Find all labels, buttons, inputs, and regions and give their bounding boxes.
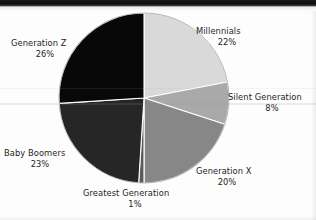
pie-slice xyxy=(59,98,144,183)
pie-label-generation-z-name: Generation Z xyxy=(11,38,79,49)
pie-label-generation-z: Generation Z 26% xyxy=(11,38,79,60)
scan-artifact-top-band-fade xyxy=(0,7,316,11)
scan-artifact-streak xyxy=(0,103,316,105)
pie-label-greatest-generation: Greatest Generation 1% xyxy=(83,188,187,210)
pie-label-greatest-generation-value: 1% xyxy=(83,199,187,210)
pie-label-generation-x-value: 20% xyxy=(196,177,258,188)
pie-chart-figure: Millennials 22% Silent Generation 8% Gen… xyxy=(0,0,316,220)
pie-label-millennials-value: 22% xyxy=(196,37,258,48)
scan-artifact-top-band xyxy=(0,0,316,7)
pie-label-silent-generation-name: Silent Generation xyxy=(228,92,316,103)
pie-label-generation-x-name: Generation X xyxy=(196,166,258,177)
page-edge-shadow-bottom xyxy=(0,216,316,220)
scan-artifact-streak-upper xyxy=(0,88,316,89)
pie-label-millennials: Millennials 22% xyxy=(196,26,258,48)
pie-label-greatest-generation-name: Greatest Generation xyxy=(83,188,187,199)
pie-label-millennials-name: Millennials xyxy=(196,26,258,37)
page-edge-shadow-right xyxy=(311,0,316,220)
pie-label-baby-boomers-value: 23% xyxy=(4,159,76,170)
pie-label-generation-z-value: 26% xyxy=(11,49,79,60)
pie-label-baby-boomers-name: Baby Boomers xyxy=(4,148,76,159)
pie-label-generation-x: Generation X 20% xyxy=(196,166,258,188)
pie-label-baby-boomers: Baby Boomers 23% xyxy=(4,148,76,170)
